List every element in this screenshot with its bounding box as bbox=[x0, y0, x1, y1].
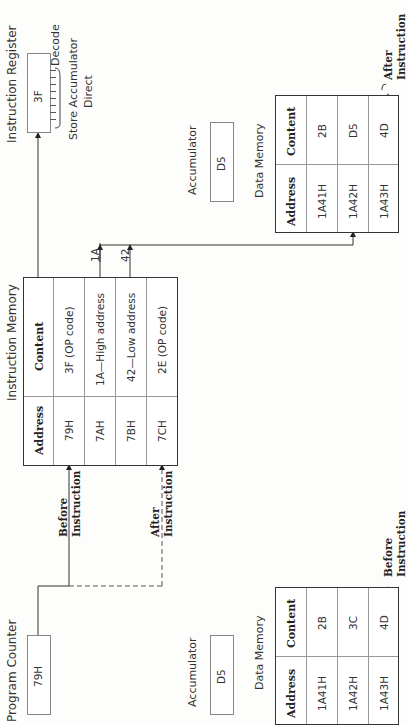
after-brace-label-line2: Instruction bbox=[395, 14, 408, 80]
accumulator-after-title: Accumulator bbox=[186, 126, 199, 195]
dm-before-row3-address: 1A43H bbox=[378, 676, 390, 711]
im-row2-address: 7AH bbox=[94, 420, 106, 442]
opcode-bits-icon bbox=[50, 70, 56, 126]
dm-after-header-content: Content bbox=[285, 107, 298, 156]
dm-after-row3-content: 4D bbox=[378, 123, 390, 138]
im-row1-address: 79H bbox=[63, 420, 75, 441]
instruction-register-box: 3F bbox=[27, 53, 51, 133]
accumulator-before-box: D5 bbox=[210, 635, 234, 715]
before-arrow-label-line2: Instruction bbox=[70, 471, 83, 537]
dm-after-row1-address: 1A41H bbox=[316, 184, 328, 219]
accumulator-after-box: D5 bbox=[210, 122, 234, 202]
im-row1-content: 3F (OP code) bbox=[63, 306, 75, 374]
after-arrow-label-line1: After bbox=[149, 507, 162, 537]
im-header-address: Address bbox=[33, 406, 46, 455]
data-memory-after-table: Address Content 1A41H 2B 1A42H D5 1A43H … bbox=[275, 95, 399, 233]
accumulator-before-value: D5 bbox=[215, 669, 227, 684]
before-brace-label-line2: Instruction bbox=[395, 511, 408, 577]
data-memory-after-title: Data Memory bbox=[253, 124, 266, 199]
dm-before-row2-content: 3C bbox=[347, 616, 359, 630]
im-row4-address: 7CH bbox=[156, 420, 168, 442]
im-row4-content: 2E (OP code) bbox=[156, 306, 168, 374]
im-row3-content: 42—Low address bbox=[125, 293, 137, 382]
dm-after-row2-content: D5 bbox=[347, 123, 359, 138]
accumulator-before-title: Accumulator bbox=[186, 638, 199, 707]
after-brace-label-line1: After bbox=[382, 50, 395, 80]
dm-before-row1-address: 1A41H bbox=[316, 676, 328, 711]
im-row3-address: 7BH bbox=[125, 420, 137, 442]
dm-after-header-address: Address bbox=[285, 177, 298, 226]
ir-meaning-line2: Direct bbox=[82, 75, 95, 108]
after-arrow-label-line2: Instruction bbox=[162, 471, 175, 537]
im-header-content: Content bbox=[33, 322, 46, 371]
ir-meaning-line1: Store Accumulator bbox=[67, 38, 80, 140]
decode-label: Decode bbox=[49, 24, 62, 66]
before-brace-label-line1: Before bbox=[382, 538, 395, 577]
bus-label-high: 1A bbox=[89, 248, 101, 262]
dm-after-row3-address: 1A43H bbox=[378, 184, 390, 219]
dm-before-row1-content: 2B bbox=[316, 616, 328, 630]
accumulator-after-value: D5 bbox=[215, 156, 227, 171]
before-arrow-label-line1: Before bbox=[57, 498, 70, 537]
bus-label-low: 42 bbox=[119, 249, 131, 262]
instruction-register-title: Instruction Register bbox=[5, 26, 19, 143]
program-counter-title: Program Counter bbox=[5, 620, 19, 722]
im-row2-content: 1A—High address bbox=[94, 293, 106, 386]
dm-before-header-content: Content bbox=[285, 599, 298, 648]
program-counter-box: 79H bbox=[27, 635, 51, 715]
data-memory-before-table: Address Content 1A41H 2B 1A42H 3C 1A43H … bbox=[275, 587, 399, 725]
data-memory-before-title: Data Memory bbox=[253, 616, 266, 691]
dm-after-row2-address: 1A42H bbox=[347, 184, 359, 219]
instruction-memory-table: Address Content 79H 3F (OP code) 7AH 1A—… bbox=[23, 277, 178, 466]
program-counter-value: 79H bbox=[32, 666, 44, 687]
dm-before-row2-address: 1A42H bbox=[347, 676, 359, 711]
dm-before-header-address: Address bbox=[285, 669, 298, 718]
dm-before-row3-content: 4D bbox=[378, 615, 390, 630]
dm-after-row1-content: 2B bbox=[316, 124, 328, 138]
instruction-register-value: 3F bbox=[32, 90, 44, 103]
instruction-memory-title: Instruction Memory bbox=[5, 284, 19, 401]
